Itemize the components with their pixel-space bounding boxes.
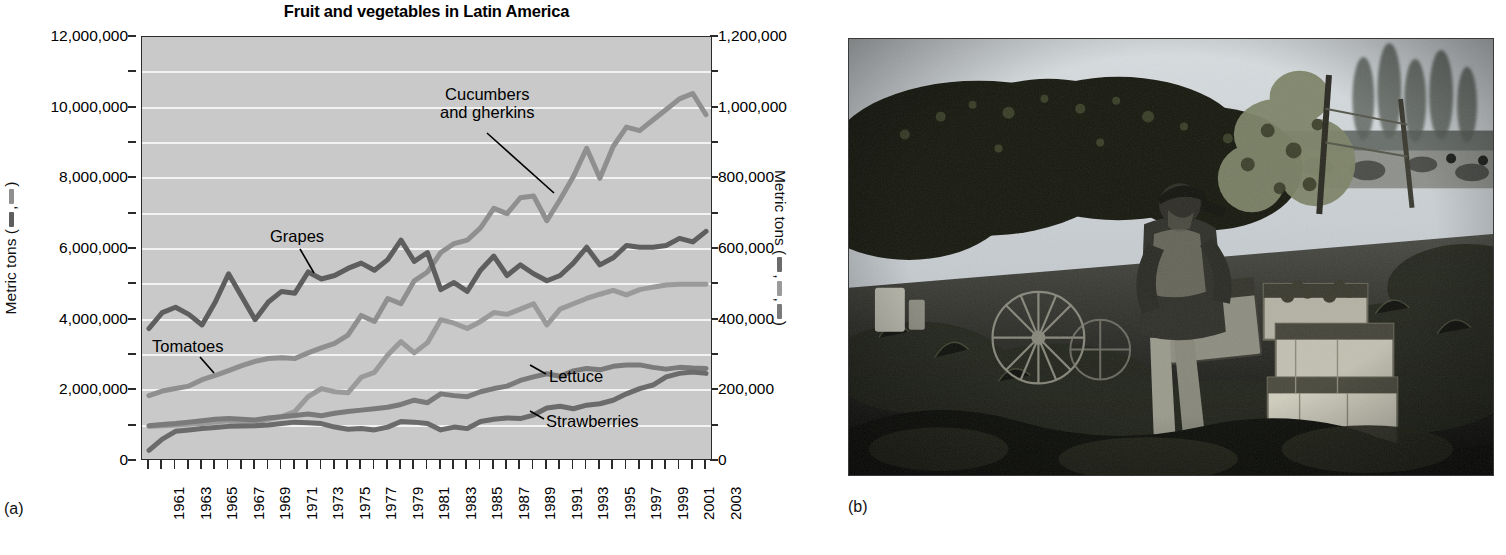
x-axis-tick-label: 1999 xyxy=(674,487,691,520)
x-axis-tick-label: 1979 xyxy=(408,487,425,520)
x-axis-tick xyxy=(359,460,361,469)
y-axis-left-tick-label: 12,000,000 xyxy=(50,27,128,45)
y-axis-left-tick xyxy=(128,247,136,249)
x-axis-tick-label: 1983 xyxy=(461,487,478,520)
key-line-strawberries xyxy=(778,257,783,272)
key-line-grapes xyxy=(9,212,14,227)
x-axis-tick-label: 1989 xyxy=(541,487,558,520)
x-axis-tick xyxy=(465,460,467,469)
x-axis-tick xyxy=(558,460,560,469)
x-axis-tick xyxy=(147,460,149,469)
key-line-cucumbers xyxy=(778,281,783,296)
x-axis-tick xyxy=(598,460,600,469)
x-axis-tick xyxy=(174,460,176,469)
x-axis-tick xyxy=(545,460,547,469)
x-axis-tick-label: 1961 xyxy=(170,487,187,520)
x-axis-tick-label: 1971 xyxy=(302,487,319,520)
x-axis-tick-label: 1993 xyxy=(594,487,611,520)
x-axis-tick xyxy=(505,460,507,469)
series-line-tomatoes xyxy=(149,94,706,396)
grape-harvest-photo xyxy=(848,38,1494,476)
y-axis-left-title-text: Metric tons xyxy=(2,239,20,315)
x-axis-tick xyxy=(346,460,348,469)
x-axis-tick xyxy=(253,460,255,469)
y-axis-right-key: ( , , ) xyxy=(771,246,789,326)
x-axis-tick-label: 1967 xyxy=(249,487,266,520)
x-axis-tick xyxy=(651,460,653,469)
y-axis-left-tick xyxy=(128,35,136,37)
chart-title: Fruit and vegetables in Latin America xyxy=(141,2,712,21)
y-axis-left-tick xyxy=(128,70,136,72)
x-axis-tick xyxy=(267,460,269,469)
x-axis-tick xyxy=(492,460,494,469)
y-axis-left-tick xyxy=(128,424,136,426)
x-axis-tick xyxy=(399,460,401,469)
x-axis-tick xyxy=(373,460,375,469)
x-axis-tick xyxy=(518,460,520,469)
x-axis-tick xyxy=(187,460,189,469)
y-axis-left-tick-label: 4,000,000 xyxy=(59,310,128,328)
x-axis-tick xyxy=(306,460,308,469)
series-lines xyxy=(142,37,712,460)
x-axis-tick xyxy=(585,460,587,469)
plot-area: Cucumbers and gherkins Grapes Tomatoes L… xyxy=(141,36,712,460)
x-axis-tick xyxy=(213,460,215,469)
annotation-cucumbers-line1: Cucumbers xyxy=(445,85,529,103)
y-axis-left-tick xyxy=(128,212,136,214)
y-axis-left-key: ( , ) xyxy=(2,182,20,239)
y-axis-right-title: Metric tons ( , , ) xyxy=(765,36,795,460)
annotation-cucumbers-and-gherkins: Cucumbers and gherkins xyxy=(440,85,534,122)
x-axis-tick-label: 2003 xyxy=(727,487,744,520)
y-axis-left-tick-label: 8,000,000 xyxy=(59,168,128,186)
x-axis-tick xyxy=(412,460,414,469)
x-axis-tick-label: 1969 xyxy=(276,487,293,520)
x-axis-tick xyxy=(678,460,680,469)
x-axis-tick-label: 1981 xyxy=(435,487,452,520)
x-axis-tick xyxy=(293,460,295,469)
y-axis-left-tick xyxy=(128,176,136,178)
x-axis-tick xyxy=(426,460,428,469)
key-line-tomatoes xyxy=(9,189,14,204)
x-axis-tick-label: 1995 xyxy=(621,487,638,520)
photo-graphic xyxy=(849,39,1493,475)
x-axis-tick xyxy=(240,460,242,469)
x-axis-tick xyxy=(386,460,388,469)
y-axis-left-tick xyxy=(128,459,136,461)
x-axis-tick xyxy=(704,460,706,469)
x-axis-tick-label: 1991 xyxy=(568,487,585,520)
panel-b-label: (b) xyxy=(848,498,868,516)
x-axis-tick-label: 1965 xyxy=(223,487,240,520)
annotation-strawberries: Strawberries xyxy=(546,412,639,430)
y-axis-left-tick-label: 0 xyxy=(119,451,128,469)
x-axis-tick-label: 1985 xyxy=(488,487,505,520)
x-axis-tick-label: 1977 xyxy=(382,487,399,520)
panel-b-photo: (b) xyxy=(848,38,1496,478)
annotation-lettuce: Lettuce xyxy=(549,367,603,385)
y-axis-left-title: Metric tons ( , ) xyxy=(0,36,26,460)
x-axis-tick xyxy=(638,460,640,469)
y-axis-left-tick xyxy=(128,318,136,320)
x-axis-tick xyxy=(532,460,534,469)
y-axis-left-tick-label: 10,000,000 xyxy=(50,98,128,116)
x-axis-ticks xyxy=(141,460,712,469)
x-axis-tick xyxy=(439,460,441,469)
annotation-cucumbers-line2: and gherkins xyxy=(440,103,534,121)
series-line-grapes xyxy=(149,231,706,328)
x-axis-tick xyxy=(452,460,454,469)
x-axis-tick xyxy=(227,460,229,469)
annotation-grapes: Grapes xyxy=(270,227,324,245)
x-axis-tick-label: 1963 xyxy=(196,487,213,520)
panel-a-label: (a) xyxy=(4,500,24,518)
annotation-tomatoes: Tomatoes xyxy=(152,337,224,355)
y-axis-left-tick xyxy=(128,141,136,143)
figure-root: Fruit and vegetables in Latin America 02… xyxy=(0,0,1506,555)
y-axis-right-title-text: Metric tons xyxy=(771,170,789,246)
y-axis-left-tick-label: 6,000,000 xyxy=(59,239,128,257)
x-axis-tick xyxy=(280,460,282,469)
x-axis-tick xyxy=(160,460,162,469)
x-axis-tick xyxy=(333,460,335,469)
y-axis-left-tick xyxy=(128,353,136,355)
x-axis-tick-label: 1975 xyxy=(355,487,372,520)
x-axis-tick xyxy=(664,460,666,469)
x-axis-tick-label: 1997 xyxy=(647,487,664,520)
